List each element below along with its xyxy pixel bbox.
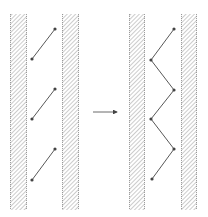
- node-dot: [149, 58, 152, 61]
- link-segment: [32, 89, 55, 119]
- node-dot: [30, 117, 33, 120]
- node-dot: [30, 178, 33, 181]
- node-dot: [172, 27, 175, 30]
- link-segment: [32, 149, 55, 180]
- right-panel-zigzag-chain: [149, 27, 175, 180]
- node-dot: [149, 117, 152, 120]
- left-panel-links: [30, 27, 56, 181]
- hatched-wall: [181, 14, 197, 210]
- node-dot: [172, 147, 175, 150]
- node-dot: [30, 57, 33, 60]
- hatched-wall: [129, 14, 145, 210]
- hatched-wall: [10, 14, 27, 210]
- node-dot: [53, 27, 56, 30]
- node-dot: [150, 177, 153, 180]
- node-dot: [53, 147, 56, 150]
- node-dot: [53, 87, 56, 90]
- diagram-canvas: [0, 0, 208, 217]
- zigzag-line: [151, 29, 174, 179]
- hatched-wall: [62, 14, 79, 210]
- link-segment: [32, 29, 55, 59]
- node-dot: [172, 88, 175, 91]
